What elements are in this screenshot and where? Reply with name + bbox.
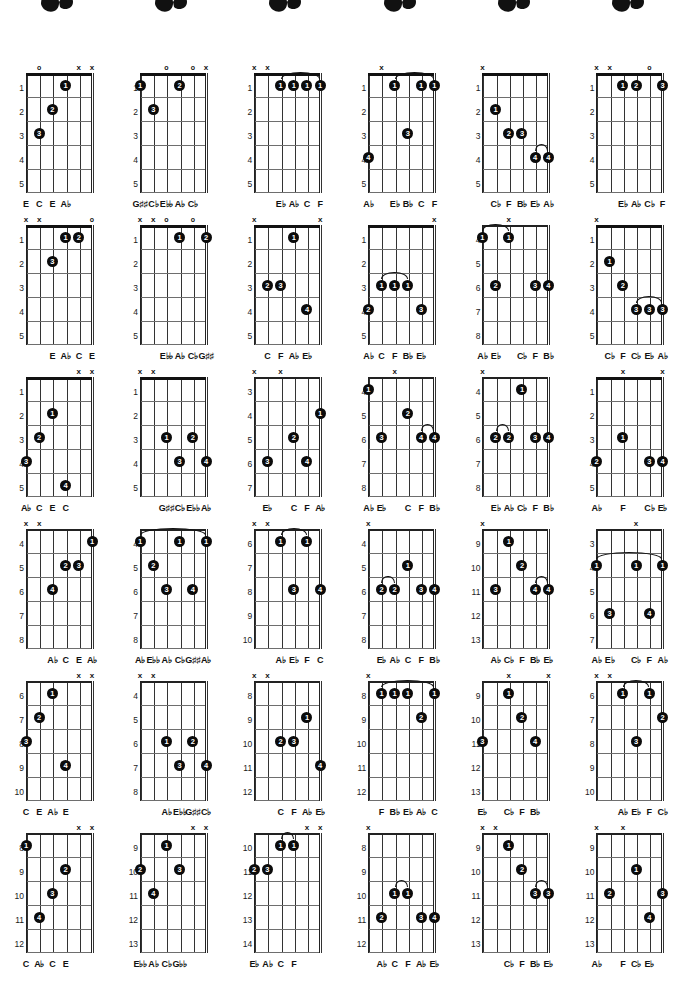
finger-dot: 1 xyxy=(315,80,326,91)
fret-line xyxy=(27,425,91,426)
finger-dot: 3 xyxy=(657,888,668,899)
finger-dot: 1 xyxy=(631,560,642,571)
string-markers: xxoo xyxy=(140,214,206,225)
string-markers: xxo xyxy=(596,62,662,73)
position-top-bar xyxy=(254,377,320,379)
nut-bar xyxy=(140,73,206,76)
note-name-row: A♭FC♭E♭ xyxy=(570,958,684,972)
finger-dot: 1 xyxy=(161,736,172,747)
note-name: E♭ xyxy=(263,502,273,514)
fret-line xyxy=(255,344,319,345)
open-string-icon: o xyxy=(646,62,653,73)
mute-string-icon: x xyxy=(75,822,82,833)
fret-line xyxy=(483,857,547,858)
string-line xyxy=(268,377,269,497)
fret-line xyxy=(369,169,433,170)
string-line xyxy=(207,377,208,497)
note-name: C xyxy=(405,654,411,666)
mute-string-icon: x xyxy=(545,670,552,681)
note-name-row: A♭E♭CFB♭ xyxy=(342,502,456,516)
finger-dot: 4 xyxy=(429,912,440,923)
string-markers: xx xyxy=(482,670,548,681)
string-line xyxy=(321,73,322,193)
fret-number: 5 xyxy=(570,180,594,189)
chord-diagram: xx345671234E♭CFA♭ xyxy=(228,366,342,518)
fret-line xyxy=(27,929,91,930)
fret-number: 12 xyxy=(114,916,138,925)
mute-string-icon: x xyxy=(365,670,372,681)
fret-number: 2 xyxy=(0,260,24,269)
fret-number: 5 xyxy=(342,412,366,421)
chord-diagram: x1234512333C♭FC♭E♭A♭ xyxy=(570,214,684,366)
string-line xyxy=(194,833,195,953)
nut-bar xyxy=(596,377,662,380)
string-line xyxy=(80,833,81,953)
string-line xyxy=(483,377,484,497)
mute-string-icon: x xyxy=(137,670,144,681)
fret-number: 5 xyxy=(456,412,480,421)
note-name: A♭ xyxy=(390,654,400,666)
mute-string-icon: x xyxy=(391,366,398,377)
fret-number: 10 xyxy=(228,636,252,645)
fret-line xyxy=(483,249,547,250)
fret-line xyxy=(27,449,91,450)
fret-line xyxy=(597,192,661,193)
finger-dot: 2 xyxy=(631,80,642,91)
fret-line xyxy=(597,273,661,274)
finger-dot: 1 xyxy=(201,536,212,547)
fret-number: 6 xyxy=(342,588,366,597)
finger-dot: 3 xyxy=(631,304,642,315)
note-name: G♯♯ xyxy=(185,806,200,818)
note-name-row: A♭E♭♭A♭C♭G♯♯A♭ xyxy=(114,654,228,668)
fret-number: 2 xyxy=(342,260,366,269)
fret-line xyxy=(141,401,205,402)
note-name: E♭ xyxy=(403,806,413,818)
fret-line xyxy=(255,857,319,858)
fret-line xyxy=(255,705,319,706)
fret-line xyxy=(141,577,205,578)
finger-dot: 3 xyxy=(631,736,642,747)
fret-number: 6 xyxy=(114,588,138,597)
note-name: C xyxy=(62,502,68,514)
nut-bar xyxy=(140,225,206,228)
finger-dot: 4 xyxy=(543,584,554,595)
fret-number: 3 xyxy=(570,284,594,293)
nut-bar xyxy=(368,225,434,228)
mute-string-icon: x xyxy=(479,822,486,833)
fret-line xyxy=(141,625,205,626)
fret-number: 6 xyxy=(570,612,594,621)
note-name-row: E♭A♭CFB♭ xyxy=(342,654,456,668)
string-line xyxy=(523,833,524,953)
finger-dot: 4 xyxy=(34,912,45,923)
note-name: C♭ xyxy=(175,502,185,514)
fret-line xyxy=(141,425,205,426)
fret-number: 4 xyxy=(570,156,594,165)
chord-diagram: xx123451234G♯♯C♭E♭♭A♭ xyxy=(114,366,228,518)
string-line xyxy=(181,225,182,345)
string-line xyxy=(422,833,423,953)
string-line xyxy=(154,73,155,193)
mute-string-icon: x xyxy=(89,366,96,377)
note-name: C xyxy=(36,502,42,514)
fret-number: 7 xyxy=(342,612,366,621)
note-name: C xyxy=(277,958,283,970)
note-name: E♭ xyxy=(315,806,325,818)
string-markers: x xyxy=(596,518,662,529)
chord-diagram: xx456781234A♭CEA♭ xyxy=(0,518,114,670)
string-line xyxy=(27,73,28,193)
fret-line xyxy=(483,496,547,497)
fret-line xyxy=(597,121,661,122)
fret-number: 12 xyxy=(342,788,366,797)
string-line xyxy=(663,681,664,801)
fret-number: 5 xyxy=(342,180,366,189)
chord-diagram: xxo12345123E♭A♭C♭F xyxy=(570,62,684,214)
fret-number: 3 xyxy=(0,132,24,141)
nut-bar xyxy=(482,73,548,76)
fret-line xyxy=(141,753,205,754)
fret-line xyxy=(255,729,319,730)
nut-bar xyxy=(254,225,320,228)
note-name: A♭ xyxy=(21,502,31,514)
string-line xyxy=(67,833,68,953)
fretboard xyxy=(368,833,434,953)
string-line xyxy=(663,225,664,345)
